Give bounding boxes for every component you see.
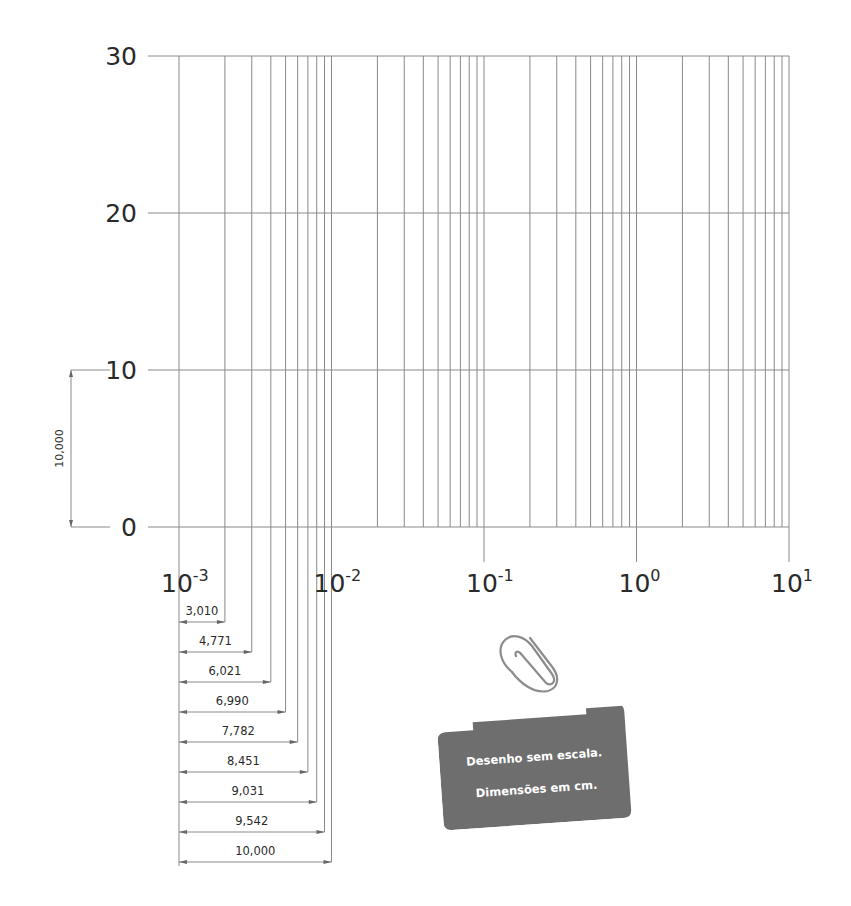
- x-tick-label: 101: [771, 566, 813, 598]
- dimension-label: 6,990: [216, 694, 249, 708]
- x-axis-labels: 10-310-210-1100101: [161, 566, 813, 598]
- x-tick-label: 10-1: [466, 566, 514, 598]
- dimension-label: 8,451: [227, 754, 260, 768]
- y-tick-label: 20: [105, 199, 137, 228]
- y-tick-label: 30: [105, 42, 137, 71]
- x-tick-label: 100: [619, 566, 661, 598]
- dimension-label: 10,000: [235, 844, 275, 858]
- dimension-label: 9,031: [231, 784, 264, 798]
- paperclip-icon: [501, 636, 558, 691]
- semilog-diagram: 0102030 10-310-210-1100101 10,000 3,0104…: [0, 0, 851, 906]
- dimension-label: 9,542: [235, 814, 268, 828]
- y-tick-label: 0: [121, 513, 137, 542]
- y-axis-labels: 0102030: [105, 42, 137, 542]
- vertical-dimension: 10,000: [53, 370, 110, 527]
- x-tick-label: 10-3: [161, 566, 209, 598]
- dimension-label: 3,010: [185, 604, 218, 618]
- dimension-label: 4,771: [199, 634, 232, 648]
- x-tick-label: 10-2: [314, 566, 362, 598]
- scale-note-card: Desenho sem escala. Dimensões em cm.: [436, 706, 633, 831]
- horizontal-dimensions: 3,0104,7716,0216,9907,7828,4519,0319,542…: [179, 604, 332, 864]
- vertical-dimension-label: 10,000: [53, 429, 66, 468]
- dimension-label: 6,021: [208, 664, 241, 678]
- semilog-grid: 0102030 10-310-210-1100101 10,000 3,0104…: [0, 0, 851, 906]
- dimension-label: 7,782: [222, 724, 255, 738]
